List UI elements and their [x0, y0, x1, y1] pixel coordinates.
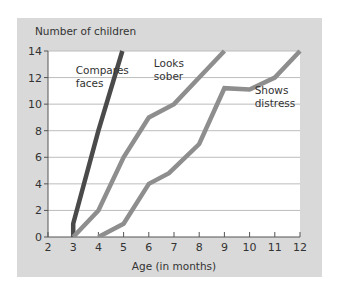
x-tick-label: 12 — [293, 241, 307, 254]
x-tick-label: 11 — [268, 241, 282, 254]
y-tick-label: 4 — [35, 178, 42, 191]
series-label: sober — [154, 70, 184, 82]
line-chart: Number of children 024681012142345678910… — [0, 0, 340, 291]
series-label: faces — [76, 77, 104, 89]
series-label: Compares — [76, 64, 129, 76]
y-tick-label: 2 — [35, 204, 42, 217]
y-tick-label: 0 — [35, 231, 42, 244]
y-tick-label: 10 — [28, 98, 42, 111]
x-tick-label: 8 — [196, 241, 203, 254]
series-label: distress — [255, 97, 296, 109]
y-axis-label: Number of children — [35, 25, 136, 37]
x-tick-label: 2 — [45, 241, 52, 254]
x-axis-label: Age (in months) — [132, 260, 216, 272]
x-tick-label: 3 — [70, 241, 77, 254]
x-tick-label: 10 — [243, 241, 257, 254]
y-tick-label: 12 — [28, 72, 42, 85]
series-label: Looks — [154, 57, 184, 69]
x-tick-label: 6 — [145, 241, 152, 254]
x-tick-label: 5 — [120, 241, 127, 254]
y-tick-label: 14 — [28, 45, 42, 58]
y-tick-label: 6 — [35, 151, 42, 164]
x-tick-label: 4 — [95, 241, 102, 254]
y-tick-label: 8 — [35, 125, 42, 138]
series-label: Shows — [255, 84, 289, 96]
x-tick-label: 9 — [221, 241, 228, 254]
x-tick-label: 7 — [171, 241, 178, 254]
